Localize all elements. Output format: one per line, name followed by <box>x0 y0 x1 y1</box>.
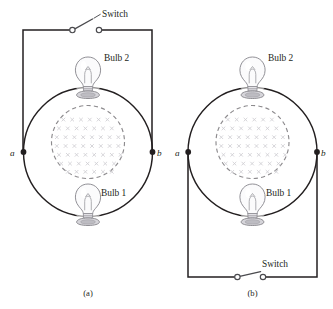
panel-a-node-a-label: a <box>10 148 15 158</box>
panel-a-field-marks <box>55 118 122 174</box>
panel-b-node-a-label: a <box>175 148 180 158</box>
panel-b-field-boundary <box>216 106 289 179</box>
panel-a-switch-lever <box>74 19 93 30</box>
panel-b-switch[interactable] <box>235 272 266 280</box>
panel-b-field-marks <box>220 118 287 174</box>
panel-a-wire-left <box>23 30 72 152</box>
panel-a-caption: (a) <box>83 288 93 298</box>
panel-b-node-a-dot <box>185 149 191 155</box>
panel-b-caption: (b) <box>247 288 257 298</box>
figure-canvas: Switch a b Bulb 2 Bulb 1 (a) <box>0 0 333 309</box>
panel-a-bulb-1-label: Bulb 1 <box>101 188 127 198</box>
panel-a-switch[interactable] <box>70 19 102 33</box>
panel-b-switch-lever <box>239 272 261 277</box>
panel-b-switch-terminal-left <box>235 274 240 279</box>
panel-a-switch-leader <box>94 14 101 18</box>
panel-b-node-b-dot <box>314 149 320 155</box>
panel-a-node-b-label: b <box>157 148 162 158</box>
panel-a-bulb-1 <box>69 180 107 226</box>
panel-b-switch-terminal-right <box>260 274 265 279</box>
panel-a: Switch a b Bulb 2 Bulb 1 (a) <box>10 9 162 299</box>
panel-b-bulb-1 <box>234 180 272 226</box>
panel-a-bulb-2 <box>69 53 107 99</box>
panel-b-bulb-2 <box>234 53 272 99</box>
panel-a-switch-terminal-left <box>70 27 75 32</box>
panel-a-node-b-dot <box>150 149 156 155</box>
panel-b: Switch a b Bulb 2 Bulb 1 (b) <box>175 53 326 299</box>
physics-figure: Switch a b Bulb 2 Bulb 1 (a) <box>0 0 333 309</box>
panel-b-bulb-2-label: Bulb 2 <box>268 53 294 63</box>
panel-b-switch-label: Switch <box>262 259 288 269</box>
panel-a-node-a-dot <box>21 149 27 155</box>
panel-a-field-boundary <box>52 106 125 179</box>
panel-b-bulb-1-label: Bulb 1 <box>266 188 292 198</box>
panel-a-bulb-2-label: Bulb 2 <box>104 53 130 63</box>
panel-a-switch-label: Switch <box>102 9 128 19</box>
panel-b-node-b-label: b <box>321 148 326 158</box>
panel-a-switch-terminal-right <box>96 27 101 32</box>
